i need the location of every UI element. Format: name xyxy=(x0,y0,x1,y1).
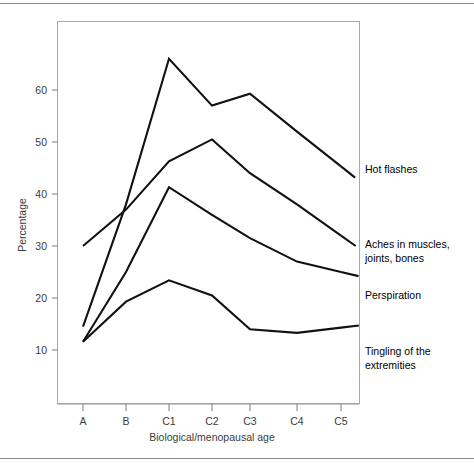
y-tick-label-60: 60 xyxy=(35,84,47,96)
series-leader-0 xyxy=(341,166,355,177)
x-tick-label-c5: C5 xyxy=(334,415,348,427)
series-label-tingling-line2: extremities xyxy=(365,359,431,371)
series-line-tingling-of-the-extremities xyxy=(83,280,341,341)
series-label-aches-line1: Aches in muscles, xyxy=(365,238,450,250)
series-leader-2 xyxy=(341,272,359,276)
x-tick-label-c3: C3 xyxy=(243,415,257,427)
y-tick-label-10: 10 xyxy=(35,344,47,356)
series-line-aches-in-muscles-joints-bones xyxy=(83,139,341,246)
x-tick-label-b: B xyxy=(122,415,129,427)
series-line-hot-flashes xyxy=(83,59,341,327)
y-axis-title: Percentage xyxy=(16,198,28,252)
y-tick-label-40: 40 xyxy=(35,188,47,200)
line-chart: 60 50 40 30 20 10 Percentage A B C1 C2 C… xyxy=(0,0,474,470)
x-axis-title: Biological/menopausal age xyxy=(149,431,275,443)
series-line-perspiration xyxy=(83,187,341,341)
y-tick-label-50: 50 xyxy=(35,136,47,148)
series-label-perspiration: Perspiration xyxy=(365,289,421,301)
series-group xyxy=(83,59,359,342)
x-tick-label-c4: C4 xyxy=(290,415,304,427)
x-tick-label-c1: C1 xyxy=(162,415,176,427)
series-leader-1 xyxy=(341,236,356,246)
series-label-aches-line2: joints, bones xyxy=(365,252,450,264)
figure-container: 60 50 40 30 20 10 Percentage A B C1 C2 C… xyxy=(0,0,474,470)
x-axis-ticks xyxy=(83,404,341,411)
y-tick-label-30: 30 xyxy=(35,240,47,252)
series-label-tingling: Tingling of the extremities xyxy=(365,345,431,371)
series-label-tingling-line1: Tingling of the xyxy=(365,345,431,357)
series-label-aches: Aches in muscles, joints, bones xyxy=(365,238,450,264)
x-tick-label-c2: C2 xyxy=(205,415,219,427)
y-tick-label-20: 20 xyxy=(35,292,47,304)
series-label-hot-flashes: Hot flashes xyxy=(365,163,418,175)
series-leader-3 xyxy=(341,326,359,328)
x-tick-label-a: A xyxy=(79,415,86,427)
